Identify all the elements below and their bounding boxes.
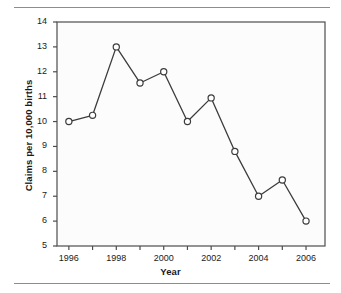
x-tick-label: 2000 <box>144 253 184 263</box>
chart-svg <box>0 0 341 293</box>
plot-background <box>57 22 325 246</box>
data-point-marker <box>113 44 119 50</box>
x-tick-label: 1996 <box>49 253 89 263</box>
data-point-marker <box>255 193 261 199</box>
data-point-marker <box>161 69 167 75</box>
data-point-marker <box>137 80 143 86</box>
y-tick-label: 5 <box>27 240 47 250</box>
data-point-marker <box>89 112 95 118</box>
x-tick-label: 2006 <box>286 253 326 263</box>
line-chart <box>0 0 341 293</box>
data-point-marker <box>232 148 238 154</box>
x-tick-label: 1998 <box>96 253 136 263</box>
x-axis-ticks <box>69 246 306 250</box>
x-tick-label: 2002 <box>191 253 231 263</box>
data-point-marker <box>66 118 72 124</box>
x-axis-title: Year <box>0 266 341 277</box>
figure-container: 567891011121314 199619982000200220042006… <box>0 0 341 293</box>
y-axis-title: Claims per 10,000 births <box>23 46 34 226</box>
y-tick-label: 14 <box>27 16 47 26</box>
data-point-marker <box>208 95 214 101</box>
data-point-marker <box>279 177 285 183</box>
data-point-marker <box>184 118 190 124</box>
x-tick-label: 2004 <box>239 253 279 263</box>
data-point-marker <box>303 218 309 224</box>
